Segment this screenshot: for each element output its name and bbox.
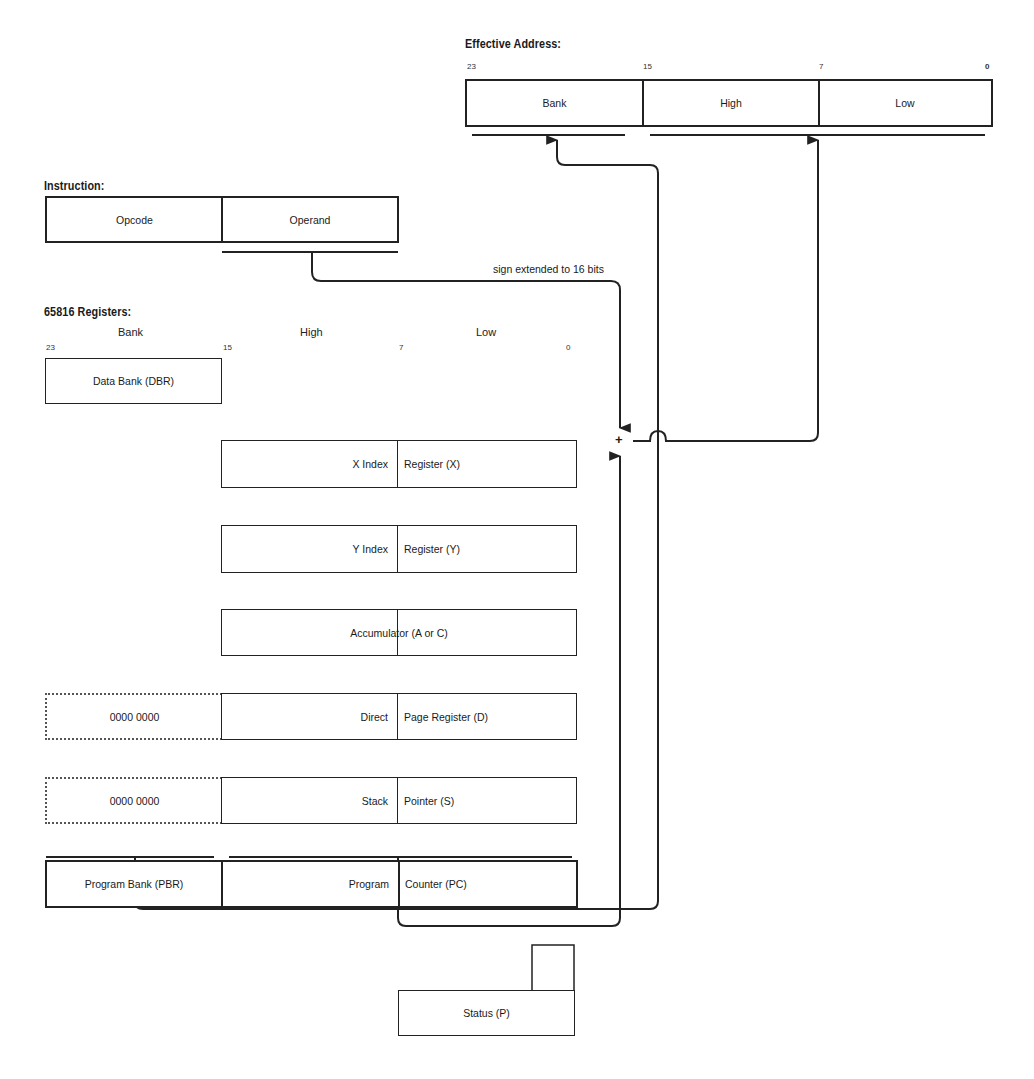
ea-bit-15: 15 (643, 62, 652, 71)
s-low-label: Pointer (S) (398, 778, 576, 823)
registers-title: 65816 Registers: (44, 305, 131, 319)
pc-low-label: Counter (PC) (399, 862, 576, 906)
d-low-label: Page Register (D) (398, 694, 576, 739)
ea-bit-0: 0 (985, 62, 989, 71)
s-bank-zero: 0000 0000 (45, 777, 222, 824)
s-high-label: Stack (222, 778, 398, 823)
instruction-box: Opcode Operand (45, 196, 399, 243)
s-bank-value: 0000 0000 (47, 779, 222, 822)
d-bank-value: 0000 0000 (47, 695, 222, 738)
effective-address-box: Bank High Low (465, 79, 993, 127)
x-low-label: Register (X) (398, 441, 576, 487)
col-bank: Bank (118, 326, 143, 338)
operand-field: Operand (223, 198, 397, 241)
reg-bit-0: 0 (566, 343, 570, 352)
d-bank-zero: 0000 0000 (45, 693, 222, 740)
ea-low-field: Low (819, 81, 991, 125)
sign-extended-annotation: sign extended to 16 bits (493, 263, 604, 275)
direct-page-register: Direct Page Register (D) (221, 693, 577, 740)
accumulator-label: Accumulator (A or C) (222, 610, 576, 655)
col-low: Low (476, 326, 496, 338)
d-high-label: Direct (222, 694, 398, 739)
dbr-label: Data Bank (DBR) (46, 359, 221, 403)
reg-bit-23: 23 (46, 343, 55, 352)
instruction-title: Instruction: (44, 179, 104, 193)
y-register: Y Index Register (Y) (221, 525, 577, 573)
status-register: Status (P) (398, 990, 575, 1036)
ea-bit-23: 23 (467, 62, 476, 71)
x-register: X Index Register (X) (221, 440, 577, 488)
y-high-label: Y Index (222, 526, 398, 572)
col-high: High (300, 326, 323, 338)
reg-bit-15: 15 (223, 343, 232, 352)
effective-address-title: Effective Address: (465, 37, 561, 51)
reg-bit-7: 7 (399, 343, 403, 352)
program-counter-register: Program Bank (PBR) Program Counter (PC) (45, 860, 578, 908)
dbr-register: Data Bank (DBR) (45, 358, 222, 404)
pbr-label: Program Bank (PBR) (47, 862, 221, 906)
ea-bank-field: Bank (467, 81, 642, 125)
x-high-label: X Index (222, 441, 398, 487)
y-low-label: Register (Y) (398, 526, 576, 572)
status-label: Status (P) (399, 991, 574, 1035)
ea-bit-7: 7 (819, 62, 823, 71)
ea-high-field: High (643, 81, 819, 125)
stack-pointer-register: Stack Pointer (S) (221, 777, 577, 824)
accumulator-register: Accumulator (A or C) (221, 609, 577, 656)
adder-plus-icon: + (615, 432, 623, 447)
pc-high-label: Program (223, 862, 399, 906)
opcode-field: Opcode (47, 198, 222, 241)
